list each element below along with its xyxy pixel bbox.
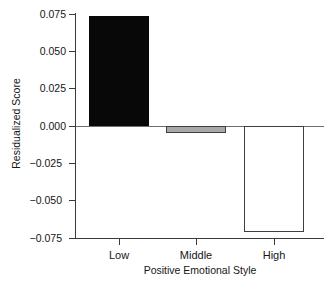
bar-low (89, 16, 149, 126)
x-tick-mark-low (119, 239, 120, 245)
y-tick-mark-5 (69, 200, 75, 201)
y-tick-mark-6 (69, 238, 75, 239)
bar-chart-figure: 0.075 0.050 0.025 0.000 −0.025 −0.050 −0… (0, 0, 332, 283)
y-tick-mark-1 (69, 51, 75, 52)
bar-high (244, 126, 304, 232)
y-tick-mark-2 (69, 88, 75, 89)
x-tick-label-high: High (229, 249, 319, 261)
y-tick-label-0: 0.075 (8, 9, 66, 20)
x-axis-title: Positive Emotional Style (76, 265, 324, 276)
x-axis-line (75, 238, 324, 239)
bar-middle (166, 126, 226, 133)
x-tick-mark-middle (196, 239, 197, 245)
x-tick-mark-high (274, 239, 275, 245)
y-tick-mark-3 (69, 126, 75, 127)
y-tick-mark-4 (69, 163, 75, 164)
y-tick-mark-0 (69, 14, 75, 15)
y-tick-label-6: −0.075 (4, 233, 62, 244)
x-tick-label-middle: Middle (151, 249, 241, 261)
y-axis-title: Residualized Score (11, 44, 22, 204)
